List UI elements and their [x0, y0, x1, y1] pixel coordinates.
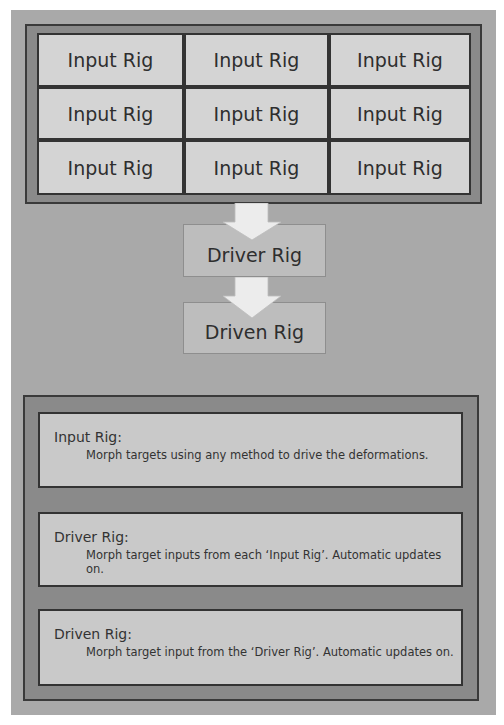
driver-rig-label: Driver Rig — [207, 244, 302, 266]
input-rig-cell: Input Rig — [37, 87, 184, 140]
legend-title: Driver Rig: — [54, 529, 461, 545]
input-rig-cell: Input Rig — [329, 33, 471, 87]
input-rig-cell: Input Rig — [329, 87, 471, 140]
cell-label: Input Rig — [214, 49, 300, 71]
down-arrow-icon — [220, 203, 284, 241]
cell-label: Input Rig — [68, 49, 154, 71]
cell-label: Input Rig — [214, 103, 300, 125]
input-rig-grid: Input Rig Input Rig Input Rig Input Rig … — [25, 24, 482, 204]
cell-label: Input Rig — [214, 157, 300, 179]
input-rig-cell: Input Rig — [184, 33, 329, 87]
legend-item-input-rig: Input Rig: Morph targets using any metho… — [38, 412, 463, 488]
driven-rig-label: Driven Rig — [205, 321, 304, 343]
legend-panel: Input Rig: Morph targets using any metho… — [23, 395, 479, 701]
input-rig-cell: Input Rig — [184, 87, 329, 140]
cell-label: Input Rig — [68, 103, 154, 125]
diagram-canvas: Input Rig Input Rig Input Rig Input Rig … — [11, 10, 496, 715]
cell-label: Input Rig — [68, 157, 154, 179]
input-rig-cell: Input Rig — [184, 140, 329, 195]
cell-label: Input Rig — [357, 49, 443, 71]
legend-title: Input Rig: — [54, 429, 461, 445]
input-rig-cell: Input Rig — [37, 33, 184, 87]
cell-label: Input Rig — [357, 157, 443, 179]
input-rig-cell: Input Rig — [37, 140, 184, 195]
legend-item-driver-rig: Driver Rig: Morph target inputs from eac… — [38, 512, 463, 587]
legend-description: Morph target inputs from each ‘Input Rig… — [86, 548, 461, 576]
legend-item-driven-rig: Driven Rig: Morph target input from the … — [38, 609, 463, 686]
down-arrow-icon — [220, 277, 284, 319]
legend-description: Morph targets using any method to drive … — [86, 448, 461, 462]
input-rig-cell: Input Rig — [329, 140, 471, 195]
legend-description: Morph target input from the ‘Driver Rig’… — [86, 645, 461, 659]
legend-title: Driven Rig: — [54, 626, 461, 642]
cell-label: Input Rig — [357, 103, 443, 125]
